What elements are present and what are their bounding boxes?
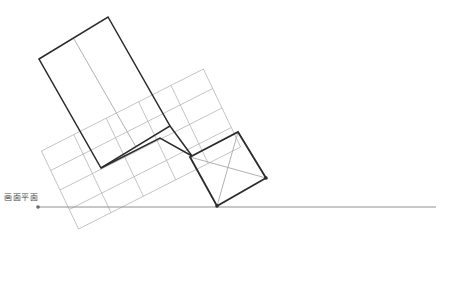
square-diagonals — [190, 132, 266, 206]
picture-plane-baseline — [36, 205, 436, 209]
bold-grid-edge-right — [170, 126, 192, 156]
geometry-drawing — [0, 0, 449, 298]
upper-rectangle-divider — [74, 39, 136, 147]
picture-plane-label: 画面平面 — [4, 194, 38, 202]
bold-grid-edge-left — [101, 138, 192, 168]
diagonal-square — [190, 132, 266, 206]
figure-canvas: 画面平面 — [0, 0, 449, 298]
grid-lines — [41, 69, 240, 229]
